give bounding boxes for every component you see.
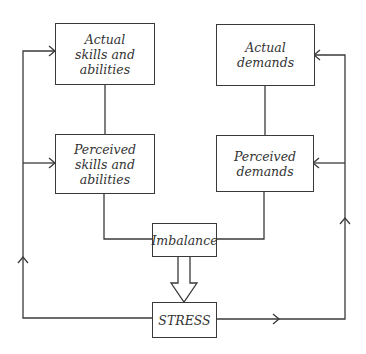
node-perceived-demands: Perceived demands [216,135,314,192]
node-label: Actual skills and abilities [75,32,135,77]
node-label: Actual demands [237,40,294,70]
node-stress: STRESS [152,302,217,338]
node-actual-demands: Actual demands [216,24,315,86]
node-perceived-skills: Perceived skills and abilities [55,134,155,194]
hollow-arrow-imbalance-to-stress-icon [171,256,197,302]
node-label: Imbalance [151,233,217,248]
node-label: Perceived demands [234,149,296,179]
connector-perceived-demands-to-imbalance [216,191,264,239]
connector-perceived-skills-to-imbalance [104,193,152,239]
node-imbalance: Imbalance [152,223,217,257]
node-label: Perceived skills and abilities [74,142,136,187]
node-actual-skills: Actual skills and abilities [55,23,155,85]
node-label: STRESS [158,313,210,328]
